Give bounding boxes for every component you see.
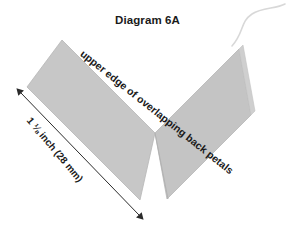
diagram-graphics xyxy=(0,0,295,232)
diagram-canvas: Diagram 6A upper edge of overlapping bac… xyxy=(0,0,295,232)
page-title: Diagram 6A xyxy=(0,14,295,26)
